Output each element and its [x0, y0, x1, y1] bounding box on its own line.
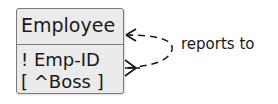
- relationship-label: reports to: [181, 35, 254, 53]
- crows-foot-icon: [125, 60, 140, 76]
